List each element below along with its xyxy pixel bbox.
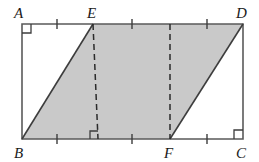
vertex-label-B: B xyxy=(14,145,23,161)
vertex-label-F: F xyxy=(163,145,174,161)
right-angle-marker-at-A xyxy=(22,24,31,33)
vertex-label-A: A xyxy=(13,5,24,21)
geometry-canvas: A E D B F C xyxy=(0,0,259,162)
vertex-label-E: E xyxy=(86,5,96,21)
vertex-label-C: C xyxy=(236,145,247,161)
geometry-figure: A E D B F C xyxy=(0,0,259,162)
vertex-label-D: D xyxy=(235,5,247,21)
shaded-parallelogram-BEDF xyxy=(22,24,243,139)
right-angle-marker-at-C xyxy=(234,130,243,139)
